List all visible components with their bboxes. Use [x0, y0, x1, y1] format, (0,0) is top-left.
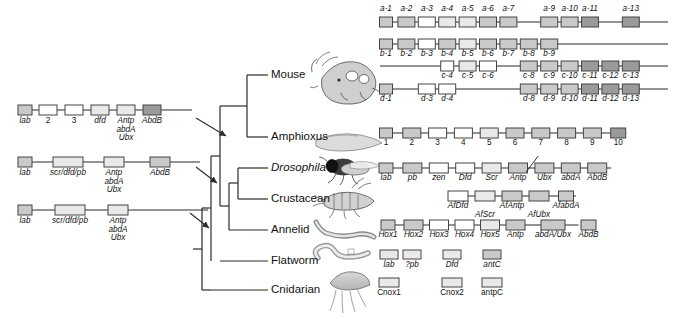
- amphioxus-cluster-box-7[interactable]: [532, 128, 550, 138]
- cnidarian-genes-box-Cnox2[interactable]: [442, 278, 462, 287]
- drosophila-cluster-box-abdA[interactable]: [561, 163, 580, 173]
- hox-c-box-c-5[interactable]: [459, 61, 476, 71]
- taxon-label-annelid[interactable]: Annelid: [271, 223, 309, 235]
- crustacean-cluster-box-AfabdA[interactable]: [559, 191, 574, 201]
- ancestral-cluster-1-box-4[interactable]: [117, 105, 135, 115]
- annelid-cluster-box-Hox1[interactable]: [381, 220, 395, 230]
- ancestral-cluster-2-box-3[interactable]: [150, 157, 170, 167]
- hox-d-box-d-9[interactable]: [541, 84, 558, 94]
- drosophila-cluster-box-pb[interactable]: [403, 163, 422, 173]
- hox-a-box-a-7[interactable]: [500, 17, 517, 27]
- annelid-cluster-box-Hox2[interactable]: [404, 220, 423, 230]
- amphioxus-cluster-box-2[interactable]: [403, 128, 421, 138]
- ancestral-cluster-2-box-0[interactable]: [18, 157, 32, 167]
- annelid-cluster-box-abdA/Ubx[interactable]: [541, 220, 565, 230]
- hox-c-box-c-6[interactable]: [480, 61, 497, 71]
- amphioxus-cluster-box-8[interactable]: [558, 128, 576, 138]
- hox-a-label-a-13: a-13: [611, 5, 651, 14]
- hox-a-box-a-5[interactable]: [459, 17, 476, 27]
- annelid-cluster-box-Hox4[interactable]: [455, 220, 474, 230]
- hox-b-box-b-5[interactable]: [459, 39, 476, 49]
- hox-d-box-d-10[interactable]: [561, 84, 578, 94]
- drosophila-cluster-box-zen[interactable]: [429, 163, 448, 173]
- taxon-label-drosophila[interactable]: Drosophila: [271, 161, 326, 173]
- hox-a-box-a-10[interactable]: [561, 17, 578, 27]
- hox-c-box-c-4[interactable]: [441, 61, 454, 71]
- hox-b-box-b-8[interactable]: [520, 39, 537, 49]
- ancestral-cluster-3-box-2[interactable]: [108, 205, 128, 215]
- ancestral-cluster-1-box-5[interactable]: [143, 105, 161, 115]
- hox-a-box-a-2[interactable]: [398, 17, 415, 27]
- crustacean-cluster-box-AfAntp[interactable]: [502, 191, 522, 201]
- hox-b-box-b-2[interactable]: [398, 39, 415, 49]
- hox-b-box-b-3[interactable]: [418, 39, 435, 49]
- annelid-cluster-box-AbdB[interactable]: [581, 220, 596, 230]
- annelid-cluster-box-Antp[interactable]: [506, 220, 525, 230]
- drosophila-cluster-box-Dfd[interactable]: [456, 163, 475, 173]
- hox-a-box-a-3[interactable]: [418, 17, 435, 27]
- ancestral-cluster-1-box-1[interactable]: [39, 105, 57, 115]
- hox-c-box-c-13[interactable]: [622, 61, 639, 71]
- amphioxus-cluster-box-4[interactable]: [454, 128, 472, 138]
- amphioxus-cluster-box-5[interactable]: [480, 128, 498, 138]
- hox-b-box-b-4[interactable]: [439, 39, 456, 49]
- hox-a-box-a-4[interactable]: [439, 17, 456, 27]
- drosophila-cluster-box-AbdB[interactable]: [588, 163, 607, 173]
- hox-a-box-a-11[interactable]: [582, 17, 599, 27]
- cnidarian-genes-box-antpC[interactable]: [482, 278, 502, 287]
- hox-d-box-d-1[interactable]: [380, 84, 393, 94]
- hox-c-box-c-11[interactable]: [582, 61, 599, 71]
- ancestral-cluster-3-box-1[interactable]: [55, 205, 85, 215]
- taxon-label-amphioxus[interactable]: Amphioxus: [271, 130, 328, 142]
- ancestral-cluster-1-box-2[interactable]: [65, 105, 83, 115]
- hox-b-box-b-9[interactable]: [541, 39, 558, 49]
- taxon-label-cnidarian[interactable]: Cnidarian: [271, 283, 320, 295]
- crustacean-cluster-box-AfDfd[interactable]: [448, 191, 468, 201]
- drosophila-cluster-box-Ubx[interactable]: [535, 163, 554, 173]
- hox-c-box-c-10[interactable]: [561, 61, 578, 71]
- drosophila-cluster-box-Antp[interactable]: [509, 163, 528, 173]
- cnidarian-genes-box-Cnox1[interactable]: [379, 278, 399, 287]
- hox-d-box-d-11[interactable]: [582, 84, 599, 94]
- flatworm-genes-box-Dfd[interactable]: [443, 250, 461, 259]
- ancestral-cluster-1-box-0[interactable]: [18, 105, 32, 115]
- drosophila-cluster-box-lab[interactable]: [379, 163, 393, 173]
- flatworm-genes-box-antC[interactable]: [483, 250, 501, 259]
- amphioxus-cluster-box-6[interactable]: [506, 128, 524, 138]
- flatworm-genes-box-?pb[interactable]: [403, 250, 421, 259]
- hox-d-box-d-4[interactable]: [439, 84, 456, 94]
- taxon-label-crustacean[interactable]: Crustacean: [271, 192, 330, 204]
- hox-a-box-a-1[interactable]: [380, 17, 393, 27]
- amphioxus-cluster-box-10[interactable]: [611, 128, 626, 138]
- hox-d-box-d-8[interactable]: [520, 84, 537, 94]
- cnidarian-illustration: [330, 272, 370, 313]
- crustacean-cluster-box-AfUbx[interactable]: [529, 191, 549, 201]
- hox-c-box-c-9[interactable]: [541, 61, 558, 71]
- ancestral-cluster-1-box-3[interactable]: [91, 105, 109, 115]
- ancestral-cluster-2-box-2[interactable]: [104, 157, 124, 167]
- annelid-cluster-box-Hox3[interactable]: [430, 220, 449, 230]
- ancestral-cluster-3-box-0[interactable]: [18, 205, 32, 215]
- ancestral-cluster-2-box-1[interactable]: [53, 157, 83, 167]
- hox-d-box-d-13[interactable]: [622, 84, 639, 94]
- amphioxus-cluster-box-1[interactable]: [380, 128, 393, 138]
- drosophila-cluster-label-AbdB: AbdB: [578, 174, 616, 183]
- hox-c-box-c-8[interactable]: [520, 61, 537, 71]
- hox-c-box-c-12[interactable]: [602, 61, 619, 71]
- hox-a-box-a-9[interactable]: [541, 17, 558, 27]
- annelid-cluster-box-Hox5[interactable]: [481, 220, 500, 230]
- amphioxus-cluster-box-9[interactable]: [583, 128, 601, 138]
- crustacean-cluster-box-AfScr[interactable]: [475, 191, 495, 201]
- hox-d-box-d-3[interactable]: [418, 84, 435, 94]
- hox-b-box-b-6[interactable]: [480, 39, 497, 49]
- taxon-label-mouse[interactable]: Mouse: [271, 68, 306, 80]
- hox-b-box-b-1[interactable]: [380, 39, 393, 49]
- hox-a-box-a-13[interactable]: [622, 17, 639, 27]
- amphioxus-cluster-box-3[interactable]: [429, 128, 447, 138]
- hox-a-box-a-6[interactable]: [480, 17, 497, 27]
- hox-d-box-d-12[interactable]: [602, 84, 619, 94]
- flatworm-genes-box-lab[interactable]: [380, 250, 398, 259]
- drosophila-cluster-box-Scr[interactable]: [482, 163, 501, 173]
- hox-b-box-b-7[interactable]: [500, 39, 517, 49]
- taxon-label-flatworm[interactable]: Flatworm: [271, 254, 318, 266]
